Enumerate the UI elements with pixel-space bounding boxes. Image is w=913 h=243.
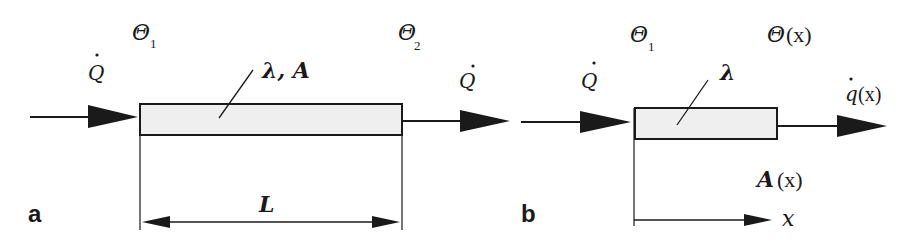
length-label: L <box>258 191 274 217</box>
svg-text:Θ: Θ <box>767 22 785 47</box>
dot-accent-icon <box>849 77 852 80</box>
svg-text:Q: Q <box>459 69 475 93</box>
temp-x-label: Θ (x) <box>767 22 812 47</box>
svg-text:Q: Q <box>88 61 104 85</box>
temp-right-label: Θ 2 <box>398 20 421 53</box>
heat-flow-in-label-b: Q <box>581 61 597 93</box>
panel-b: Q Θ 1 Θ (x) λ q (x) A (x) <box>521 22 887 231</box>
dot-accent-icon <box>471 64 474 67</box>
panel-a-label: a <box>28 200 42 227</box>
rod-b <box>635 108 777 139</box>
svg-text:Q: Q <box>581 69 597 93</box>
length-dimension: L <box>140 135 402 230</box>
svg-text:(x): (x) <box>777 167 803 192</box>
x-axis-label: x <box>782 206 795 231</box>
svg-text:Θ: Θ <box>132 20 150 45</box>
heat-flow-out-arrow <box>402 110 510 132</box>
heat-conduction-figure: Θ 1 Θ 2 Q Q λ, A L a <box>0 0 913 243</box>
svg-text:1: 1 <box>648 39 655 54</box>
heat-flow-out-label: Q <box>459 64 475 93</box>
heat-flux-out-label: q (x) <box>845 77 881 106</box>
svg-text:2: 2 <box>414 38 421 53</box>
heat-flow-in-arrow <box>30 105 138 128</box>
axis-arrowhead-icon <box>744 214 772 226</box>
panel-a: Θ 1 Θ 2 Q Q λ, A L a <box>28 20 510 230</box>
area-label: A (x) <box>755 166 803 192</box>
heat-flow-in-arrow-b <box>521 111 631 133</box>
temp-left-label-b: Θ 1 <box>630 22 655 54</box>
svg-text:1: 1 <box>150 36 157 51</box>
material-label: λ, A <box>261 57 310 83</box>
heat-flux-out-arrow <box>777 115 887 137</box>
svg-text:(x): (x) <box>858 83 881 106</box>
rod-a <box>140 104 402 135</box>
svg-text:(x): (x) <box>786 22 812 47</box>
svg-text:q: q <box>845 82 858 106</box>
panel-b-label: b <box>521 200 536 227</box>
temp-left-label: Θ 1 <box>132 20 157 51</box>
dot-accent-icon <box>592 61 595 64</box>
dot-accent-icon <box>95 53 98 56</box>
heat-flow-in-label: Q <box>88 53 104 85</box>
svg-text:Θ: Θ <box>630 22 648 47</box>
diagram-svg: Θ 1 Θ 2 Q Q λ, A L a <box>0 0 913 243</box>
svg-text:A: A <box>755 166 774 192</box>
material-label-b: λ <box>719 59 735 85</box>
